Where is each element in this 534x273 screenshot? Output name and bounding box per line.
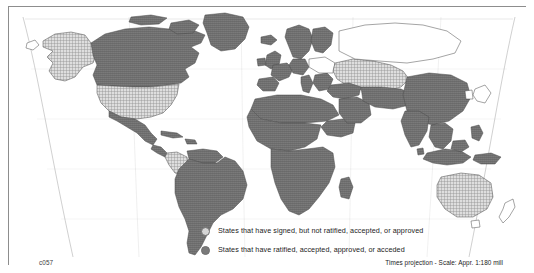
legend-item-signed: States that have signed, but not ratifie… — [201, 223, 501, 239]
projection-scale-note: Times projection - Scale: Appr. 1:180 mi… — [385, 259, 503, 266]
legend-label-signed: States that have signed, but not ratifie… — [218, 226, 423, 236]
legend-label-ratified: States that have ratified, accepted, app… — [218, 245, 405, 255]
region-ireland — [257, 58, 266, 66]
map-legend: States that have signed, but not ratifie… — [201, 223, 501, 261]
plate-code-label: c057 — [39, 259, 53, 266]
world-map-figure: States that have signed, but not ratifie… — [0, 0, 534, 273]
region-sri-lanka — [417, 148, 424, 155]
legend-item-ratified: States that have ratified, accepted, app… — [201, 242, 501, 258]
legend-swatch-ratified-icon — [201, 246, 210, 255]
region-korea — [465, 90, 473, 99]
map-plate-frame: States that have signed, but not ratifie… — [8, 6, 526, 265]
region-canada — [91, 27, 205, 87]
legend-swatch-signed-icon — [201, 227, 210, 236]
